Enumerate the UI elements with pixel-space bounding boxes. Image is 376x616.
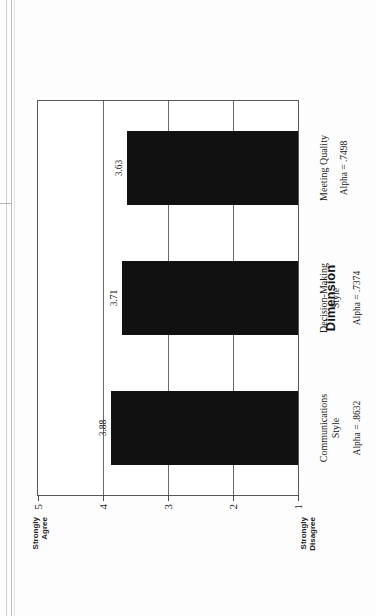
scale-anchor-strongly-disagree: Strongly Disagree <box>300 517 318 551</box>
ytick-label-3: 3 <box>162 504 174 510</box>
page-edge-rule-2 <box>11 0 12 616</box>
ytick-mark-5 <box>38 495 39 501</box>
ytick-mark-4 <box>103 495 104 501</box>
bar-value-label-meeting-quality: 3.63 <box>114 160 124 177</box>
page-edge-rule-1 <box>6 0 7 616</box>
bar-meeting-quality <box>127 131 298 206</box>
ytick-mark-2 <box>233 495 234 501</box>
plot-area: 5 4 3 2 1 Strongly Agree Strongly Disagr… <box>37 100 299 496</box>
bar-communications-style <box>111 391 298 466</box>
category-alpha-decision-making-style: Alpha = .7374 <box>352 263 364 333</box>
scale-anchor-strongly-agree: Strongly Agree <box>32 517 50 549</box>
bar-chart: 5 4 3 2 1 Strongly Agree Strongly Disagr… <box>23 48 353 568</box>
ytick-mark-3 <box>168 495 169 501</box>
category-label-communications-style: Communications Style Alpha = .8632 <box>305 394 376 462</box>
x-axis-title: Dimension <box>323 100 338 496</box>
scanned-page: 5 4 3 2 1 Strongly Agree Strongly Disagr… <box>0 0 376 616</box>
bar-value-label-communications-style: 3.88 <box>98 420 108 437</box>
ytick-label-2: 2 <box>227 504 239 510</box>
category-label-decision-making-style: Decision-Making Style Alpha = .7374 <box>305 263 376 333</box>
page-edge-rule-3 <box>14 0 15 616</box>
ytick-label-5: 5 <box>32 504 44 510</box>
ytick-label-1: 1 <box>292 504 304 510</box>
bar-decision-making-style <box>122 261 298 336</box>
bar-value-label-decision-making-style: 3.71 <box>109 290 119 307</box>
ytick-label-4: 4 <box>97 504 109 510</box>
category-alpha-meeting-quality: Alpha = .7498 <box>339 135 351 201</box>
page-margin-tick <box>0 203 12 204</box>
rotated-figure-container: 5 4 3 2 1 Strongly Agree Strongly Disagr… <box>23 48 353 568</box>
category-alpha-communications-style: Alpha = .8632 <box>352 394 364 462</box>
ytick-mark-1 <box>298 495 299 501</box>
